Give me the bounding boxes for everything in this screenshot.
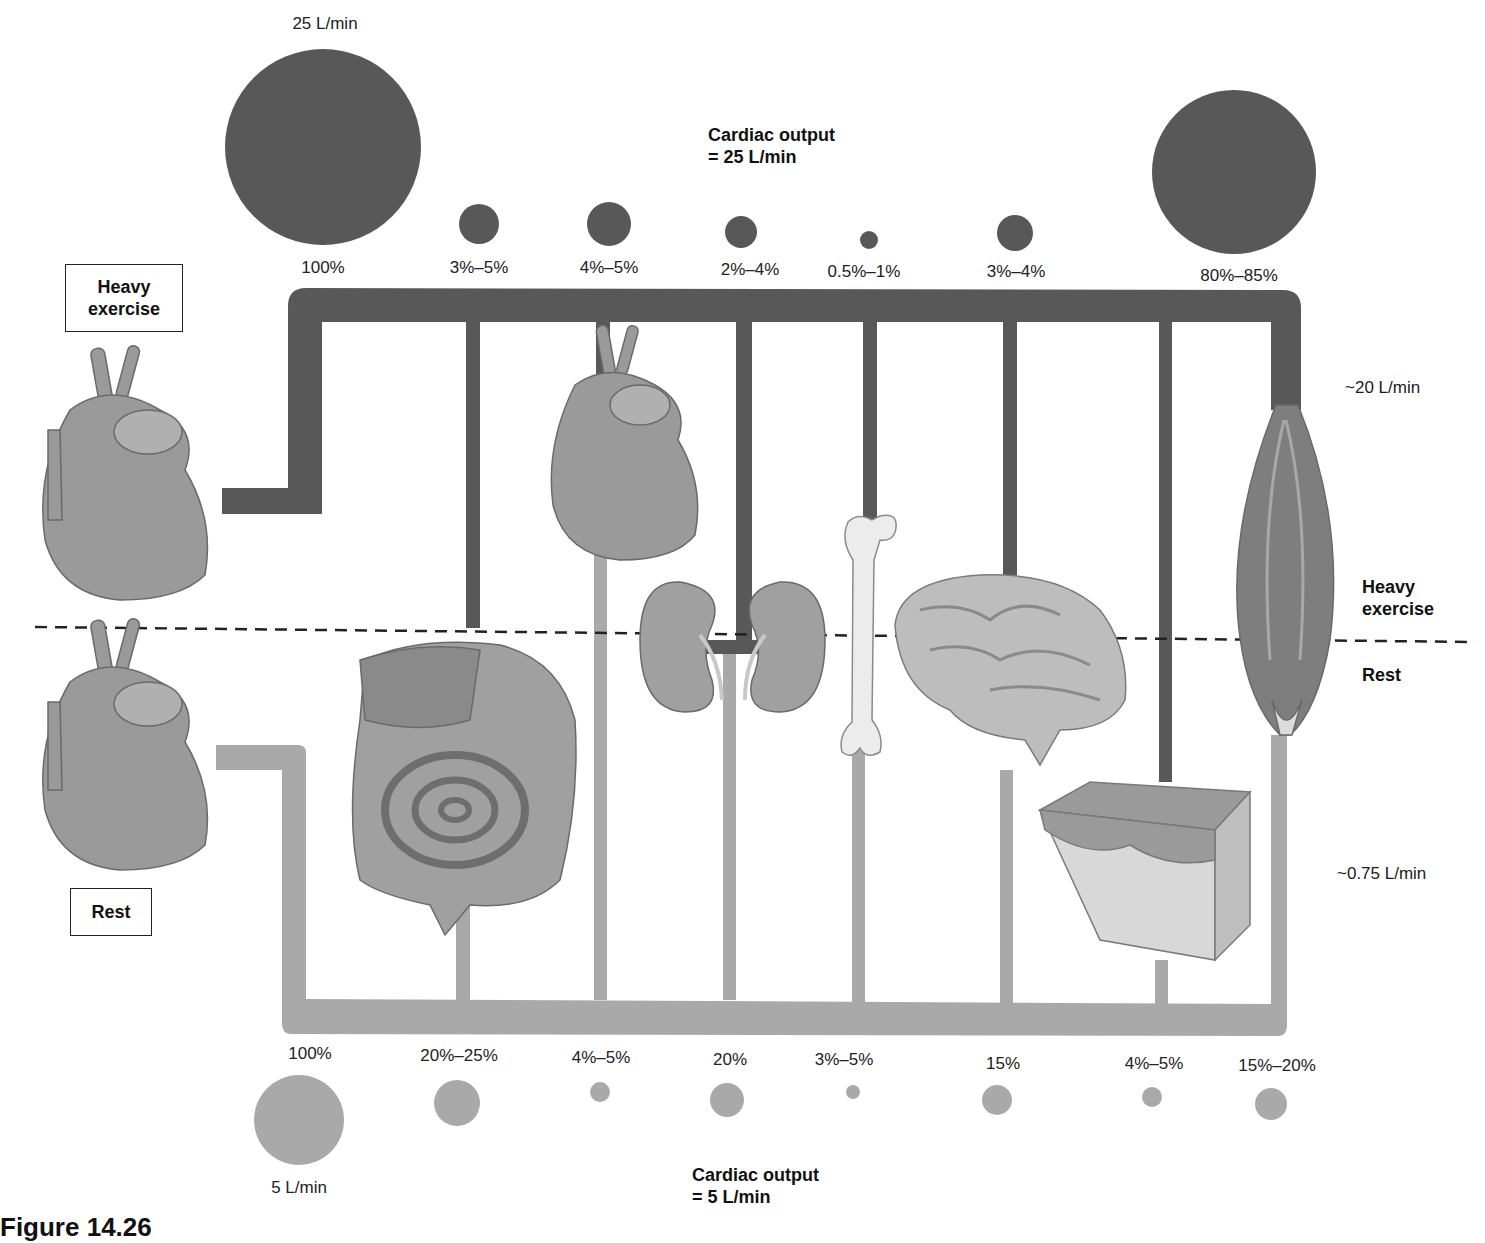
rest-percent-label: 100% <box>288 1044 331 1064</box>
rest-percent-label: 15%–20% <box>1238 1056 1316 1076</box>
rest-percent-label: 20%–25% <box>420 1046 498 1066</box>
rest-percent-label: 15% <box>986 1054 1020 1074</box>
rest-percent-label: 3%–5% <box>815 1050 874 1070</box>
rest-bubble <box>982 1085 1012 1115</box>
exercise-percent-label: 4%–5% <box>580 258 639 278</box>
heart-rest-icon <box>43 617 208 870</box>
rest-percent-label: 4%–5% <box>1125 1054 1184 1074</box>
muscle-exercise-flow: ~20 L/min <box>1345 378 1420 398</box>
divider-rest-label: Rest <box>1362 664 1401 686</box>
bone-icon <box>841 515 896 755</box>
divider-heavy-exercise-label: Heavy exercise <box>1362 576 1485 620</box>
exercise-percent-label: 80%–85% <box>1200 266 1278 286</box>
exercise-bubble <box>1152 90 1316 254</box>
rest-box-label: Rest <box>91 901 130 923</box>
exercise-bubble <box>459 204 499 244</box>
skin-icon <box>1040 782 1250 960</box>
rest-bubble <box>1255 1088 1287 1120</box>
exercise-percent-label: 3%–5% <box>450 258 509 278</box>
heavy-exercise-box-label: Heavy exercise <box>66 276 182 320</box>
rest-bubble <box>846 1085 860 1099</box>
exercise-percent-label: 100% <box>301 258 344 278</box>
exercise-bubble <box>860 231 878 249</box>
cardiac-output-rest-line2: = 5 L/min <box>692 1186 819 1208</box>
heart-organ-icon <box>551 324 697 560</box>
cardiac-output-rest: Cardiac output = 5 L/min <box>692 1164 819 1208</box>
muscle-rest-flow: ~0.75 L/min <box>1337 864 1426 884</box>
cardiac-output-exercise: Cardiac output = 25 L/min <box>708 124 835 168</box>
rest-bubble <box>434 1080 480 1126</box>
rest-bubble <box>1142 1087 1162 1107</box>
top-total-flow: 25 L/min <box>292 14 357 34</box>
exercise-bubble <box>225 49 421 245</box>
figure-caption: Figure 14.26 <box>0 1212 152 1243</box>
cardiac-output-exercise-line2: = 25 L/min <box>708 146 835 168</box>
rest-box: Rest <box>70 888 152 936</box>
rest-bubble <box>590 1082 610 1102</box>
heavy-exercise-box: Heavy exercise <box>65 264 183 332</box>
brain-icon <box>895 575 1126 765</box>
exercise-percent-label: 0.5%–1% <box>828 262 901 282</box>
exercise-percent-label: 2%–4% <box>721 260 780 280</box>
exercise-bubble <box>587 202 631 246</box>
rest-percent-label: 4%–5% <box>572 1048 631 1068</box>
exercise-bubble <box>997 215 1033 251</box>
skeletal-muscle-icon <box>1237 405 1334 735</box>
cardiac-output-exercise-line1: Cardiac output <box>708 124 835 146</box>
exercise-bubble <box>725 216 757 248</box>
rest-percent-label: 20% <box>713 1050 747 1070</box>
exercise-percent-label: 3%–4% <box>987 262 1046 282</box>
rest-bubble <box>710 1083 744 1117</box>
bottom-total-flow: 5 L/min <box>271 1178 327 1198</box>
heart-exercise-icon <box>43 344 208 600</box>
digestive-tract-icon <box>353 642 577 935</box>
rest-bubble <box>254 1075 344 1165</box>
cardiac-output-rest-line1: Cardiac output <box>692 1164 819 1186</box>
